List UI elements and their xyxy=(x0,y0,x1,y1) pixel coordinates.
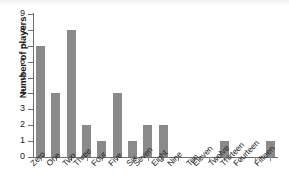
bar xyxy=(113,93,122,157)
bar xyxy=(51,93,60,157)
bar-chart-figure: Number of players 0123456789 ZeroOneTwoT… xyxy=(0,0,289,196)
y-axis-tick-label: 2 xyxy=(20,119,25,130)
bar xyxy=(36,46,45,157)
y-axis-tick-label: 1 xyxy=(20,135,25,146)
y-axis-tick-label: 8 xyxy=(20,24,25,35)
y-axis-tick-label: 3 xyxy=(20,103,25,114)
y-axis-tick-label: 4 xyxy=(20,87,25,98)
y-axis-tick-label: 7 xyxy=(20,40,25,51)
y-axis-tick-label: 6 xyxy=(20,56,25,67)
y-axis-tick-label: 5 xyxy=(20,72,25,83)
bars-layer xyxy=(33,14,280,157)
y-axis-tick-label: 9 xyxy=(20,8,25,19)
x-axis-tick-label: Zero xyxy=(28,149,47,168)
scan-edge-band xyxy=(0,0,289,5)
y-axis-tick-label: 0 xyxy=(20,151,25,162)
bar xyxy=(67,30,76,157)
x-axis-tick xyxy=(270,157,271,161)
